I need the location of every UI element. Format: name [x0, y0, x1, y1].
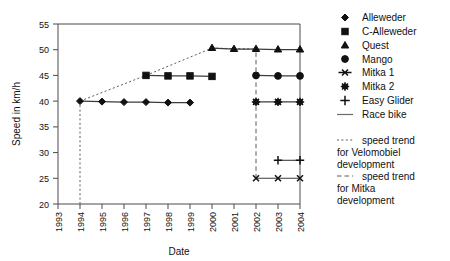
legend-label-mitka-2: Mitka 2: [362, 81, 395, 92]
series-alleweder: [77, 98, 194, 107]
data-point-marker: [187, 99, 194, 106]
plot-frame: [58, 24, 300, 204]
x-tick-label-1999: 1999: [186, 212, 196, 232]
data-point-marker: [296, 46, 303, 52]
triangle-marker-icon: [341, 42, 348, 49]
series-easy-glider: [274, 156, 304, 164]
data-point-marker: [253, 72, 260, 79]
legend-label-easy-glider: Easy Glider: [362, 95, 414, 106]
y-tick-label-30: 30: [39, 148, 49, 158]
data-point-marker: [252, 45, 259, 51]
data-point-marker: [143, 99, 150, 106]
data-point-marker: [209, 73, 215, 79]
circle-marker-icon: [342, 56, 349, 63]
x-axis-ticks: 1993 1994 1995 1996 1997 1998 1999 2000 …: [54, 204, 306, 232]
series-mitka-2: [252, 98, 304, 106]
diamond-marker-icon: [342, 14, 349, 21]
data-point-marker: [296, 156, 304, 164]
data-point-marker: [274, 156, 282, 164]
y-tick-label-40: 40: [39, 97, 49, 107]
legend-label-quest: Quest: [362, 40, 389, 51]
trend-velomobiel: [80, 48, 256, 204]
data-point-marker: [77, 98, 84, 105]
legend-label-race-bike: Race bike: [362, 109, 407, 120]
data-point-marker: [165, 99, 172, 106]
legend-note-mitka-line1: speed trend: [362, 171, 415, 182]
legend-item-mango[interactable]: Mango: [342, 54, 393, 65]
y-tick-label-45: 45: [39, 71, 49, 81]
legend-item-c-alleweder[interactable]: C-Alleweder: [342, 26, 417, 37]
y-tick-label-20: 20: [39, 200, 49, 210]
data-point-marker: [275, 73, 282, 80]
x-marker-icon: [339, 70, 352, 76]
x-tick-label-2002: 2002: [252, 212, 262, 232]
x-tick-label-1997: 1997: [142, 212, 152, 232]
legend-note-velomobiel-line2: for Velomobiel: [337, 147, 400, 158]
x-tick-label-1993: 1993: [54, 212, 64, 232]
chart-canvas: 55 50 45 40 35 30 25 20 Speed in km/h 19…: [0, 0, 450, 261]
legend-note-velomobiel-line1: speed trend: [362, 135, 415, 146]
legend-note-mitka-line3: development: [337, 195, 394, 206]
x-tick-label-2001: 2001: [230, 212, 240, 232]
legend-label-mango: Mango: [362, 54, 393, 65]
legend-label-c-alleweder: C-Alleweder: [362, 26, 417, 37]
x-tick-label-1995: 1995: [98, 212, 108, 232]
legend-item-easy-glider[interactable]: Easy Glider: [340, 95, 414, 106]
speed-vs-date-chart: 55 50 45 40 35 30 25 20 Speed in km/h 19…: [0, 0, 450, 261]
y-axis-ticks: 55 50 45 40 35 30 25 20: [39, 20, 58, 210]
data-point-marker: [121, 99, 128, 106]
data-point-marker: [143, 72, 149, 78]
series-mango: [253, 72, 304, 79]
legend-note-velomobiel-line3: development: [337, 159, 394, 170]
x-tick-label-2000: 2000: [208, 212, 218, 232]
series-c-alleweder: [143, 72, 215, 79]
chart-legend: Alleweder C-Alleweder Quest Mango Mitka …: [337, 12, 417, 206]
y-tick-label-50: 50: [39, 45, 49, 55]
y-tick-label-25: 25: [39, 174, 49, 184]
data-point-marker: [165, 73, 171, 79]
y-tick-label-55: 55: [39, 20, 49, 30]
x-tick-label-1998: 1998: [164, 212, 174, 232]
series-mitka-1: [253, 175, 303, 181]
legend-item-mitka-1[interactable]: Mitka 1: [339, 67, 395, 78]
legend-label-alleweder: Alleweder: [362, 12, 407, 23]
x-tick-label-1994: 1994: [76, 212, 86, 232]
legend-item-quest[interactable]: Quest: [341, 40, 389, 51]
data-point-marker: [187, 73, 193, 79]
data-point-marker: [99, 98, 106, 105]
legend-label-mitka-1: Mitka 1: [362, 67, 395, 78]
legend-item-race-bike[interactable]: Race bike: [337, 109, 407, 120]
y-tick-label-35: 35: [39, 122, 49, 132]
x-tick-label-2003: 2003: [274, 212, 284, 232]
data-point-marker: [297, 73, 304, 80]
legend-item-mitka-2[interactable]: Mitka 2: [341, 81, 395, 92]
legend-note-velomobiel-trend: speed trend for Velomobiel development: [337, 135, 415, 170]
square-marker-icon: [342, 28, 348, 34]
x-axis-title: Date: [168, 246, 190, 257]
legend-item-alleweder[interactable]: Alleweder: [342, 12, 407, 23]
x-tick-label-1996: 1996: [120, 212, 130, 232]
series-quest: [208, 44, 303, 52]
data-point-marker: [208, 44, 215, 50]
legend-note-mitka-line2: for Mitka: [337, 183, 376, 194]
plus-marker-icon: [340, 96, 349, 105]
legend-note-mitka-trend: speed trend for Mitka development: [337, 171, 415, 206]
x-tick-label-2004: 2004: [296, 212, 306, 232]
data-point-marker: [274, 46, 281, 52]
y-axis-title: Speed in km/h: [11, 82, 22, 146]
